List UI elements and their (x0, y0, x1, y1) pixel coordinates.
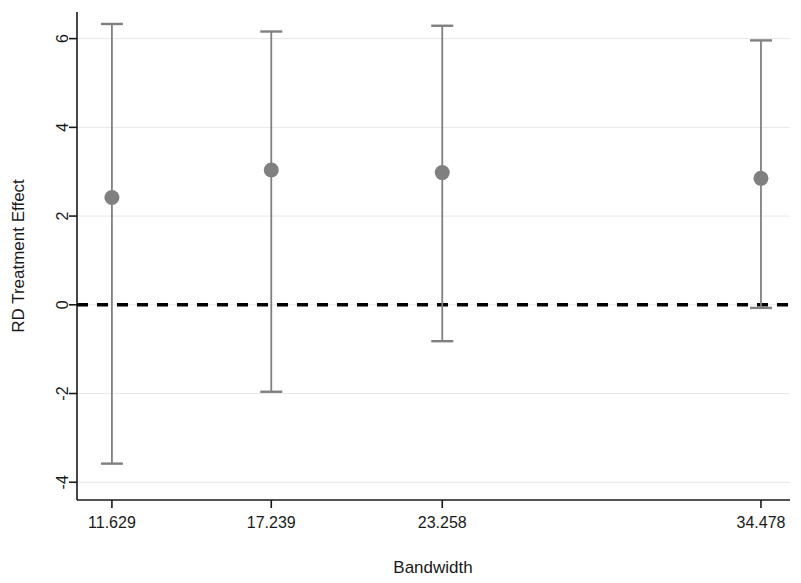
point-estimate-marker (104, 190, 119, 205)
chart-background (0, 0, 801, 583)
x-tick-label: 23.258 (418, 514, 467, 531)
point-estimate-marker (753, 171, 768, 186)
x-tick-label: 11.629 (88, 514, 136, 531)
rd-bandwidth-sensitivity-chart: -4-20246 11.62917.23923.25834.478 Bandwi… (0, 0, 801, 583)
x-tick-label: 34.478 (736, 514, 785, 531)
y-tick-label: -2 (55, 386, 72, 400)
chart-canvas: -4-20246 11.62917.23923.25834.478 Bandwi… (0, 0, 801, 583)
y-tick-label: -4 (55, 475, 72, 489)
point-estimate-marker (435, 165, 450, 180)
y-tick-label: 0 (55, 300, 72, 309)
y-tick-label: 2 (55, 212, 72, 221)
y-axis-title: RD Treatment Effect (9, 179, 28, 333)
x-axis-title: Bandwidth (393, 558, 472, 577)
point-estimate-marker (264, 162, 279, 177)
y-tick-label: 6 (55, 34, 72, 43)
y-tick-label: 4 (55, 123, 72, 132)
x-tick-label: 17.239 (247, 514, 296, 531)
